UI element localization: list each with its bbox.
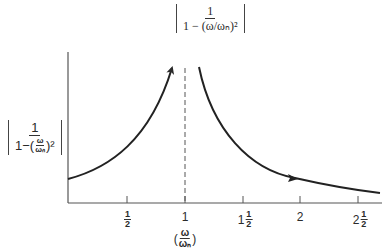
xlabel-den: ωₙ: [178, 239, 192, 249]
x-tick-label: 1 2: [123, 210, 131, 229]
x-tick-label: 1: [182, 210, 189, 224]
tick-whole: 2: [297, 210, 304, 224]
tick-whole: 1: [182, 210, 189, 224]
x-tick-label: 2: [297, 210, 304, 224]
xlabel-fraction: ω ωₙ: [178, 228, 192, 249]
tick-whole: 2: [353, 213, 360, 227]
plot-area: [0, 0, 390, 252]
tick-fraction: 1 2: [124, 210, 131, 229]
curve-above-resonance: [199, 67, 380, 193]
tick-fraction: 1 2: [245, 210, 252, 229]
tick-fraction: 1 2: [360, 210, 367, 229]
x-axis-label: ( ω ωₙ ): [174, 228, 196, 249]
tick-whole: 1: [238, 213, 245, 227]
tick-den: 2: [360, 220, 367, 229]
x-tick-label: 2 1 2: [353, 210, 368, 229]
x-tick-label: 1 1 2: [238, 210, 253, 229]
curve-below-resonance: [68, 68, 172, 179]
tick-den: 2: [245, 220, 252, 229]
tick-den: 2: [124, 220, 131, 229]
xlabel-close: ): [192, 232, 196, 246]
